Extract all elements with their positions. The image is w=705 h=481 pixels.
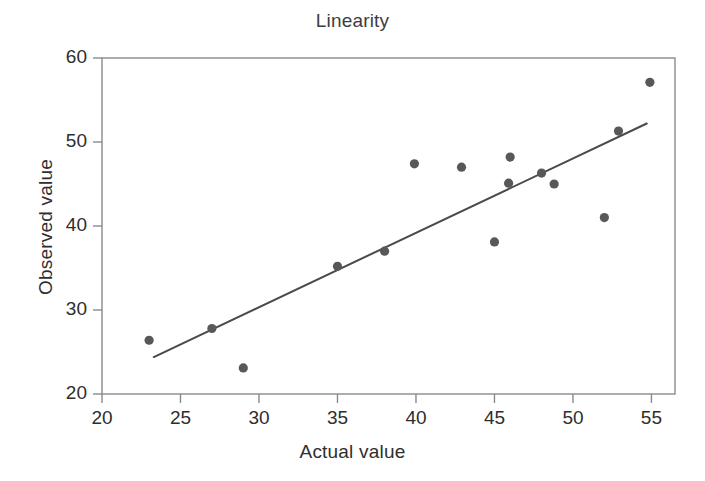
data-point — [380, 247, 389, 256]
x-tick-label: 40 — [393, 407, 439, 429]
chart-figure: Linearity 2025303540455055 2030405060 Ac… — [0, 0, 705, 481]
data-point — [537, 168, 546, 177]
x-tick-label: 35 — [314, 407, 360, 429]
y-axis-label: Observed value — [35, 97, 57, 357]
x-axis-ticks — [102, 394, 651, 403]
data-point — [600, 213, 609, 222]
data-point — [504, 179, 513, 188]
x-tick-label: 20 — [79, 407, 125, 429]
plot-border — [102, 58, 675, 394]
x-tick-label: 25 — [157, 407, 203, 429]
data-point — [333, 262, 342, 271]
x-tick-label: 55 — [628, 407, 674, 429]
x-tick-label: 45 — [471, 407, 517, 429]
x-tick-label: 30 — [236, 407, 282, 429]
data-point — [490, 237, 499, 246]
y-tick-label: 60 — [41, 46, 87, 68]
regression-line — [154, 124, 647, 358]
x-tick-label: 50 — [550, 407, 596, 429]
data-point — [207, 324, 216, 333]
data-point — [550, 179, 559, 188]
data-point — [645, 78, 654, 87]
y-tick-label: 20 — [41, 382, 87, 404]
data-point — [457, 163, 466, 172]
fit-line — [154, 124, 647, 358]
data-point — [614, 126, 623, 135]
data-points — [144, 78, 654, 373]
y-axis-ticks — [93, 58, 102, 394]
data-point — [410, 159, 419, 168]
data-point — [144, 336, 153, 345]
data-point — [506, 153, 515, 162]
plot-frame — [102, 58, 675, 394]
x-axis-label: Actual value — [0, 441, 705, 463]
data-point — [239, 363, 248, 372]
